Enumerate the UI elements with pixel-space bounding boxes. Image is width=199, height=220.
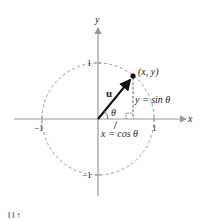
- angle-label: θ: [111, 107, 116, 118]
- point-xy: [130, 73, 135, 78]
- sin-label: y = sin θ: [134, 94, 170, 105]
- right-angle-mark: [126, 113, 133, 119]
- tick-label-y-pos: 1: [87, 58, 92, 68]
- point-label: (x, y): [138, 66, 159, 78]
- vector-label: u: [106, 87, 112, 99]
- tick-label-y-neg: −1: [82, 170, 92, 180]
- unit-circle-diagram: y x 1 −1 −1 1 u θ (x, y) y = sin θ x = c…: [0, 0, 199, 220]
- tick-label-x-neg: −1: [34, 123, 44, 133]
- tick-label-x-pos: 1: [152, 123, 157, 133]
- y-axis-label: y: [94, 14, 100, 25]
- footer-fragment: ‖ ‖ ↑: [8, 211, 21, 220]
- cos-label: x = cos θ: [100, 128, 138, 139]
- x-axis-label: x: [187, 113, 193, 124]
